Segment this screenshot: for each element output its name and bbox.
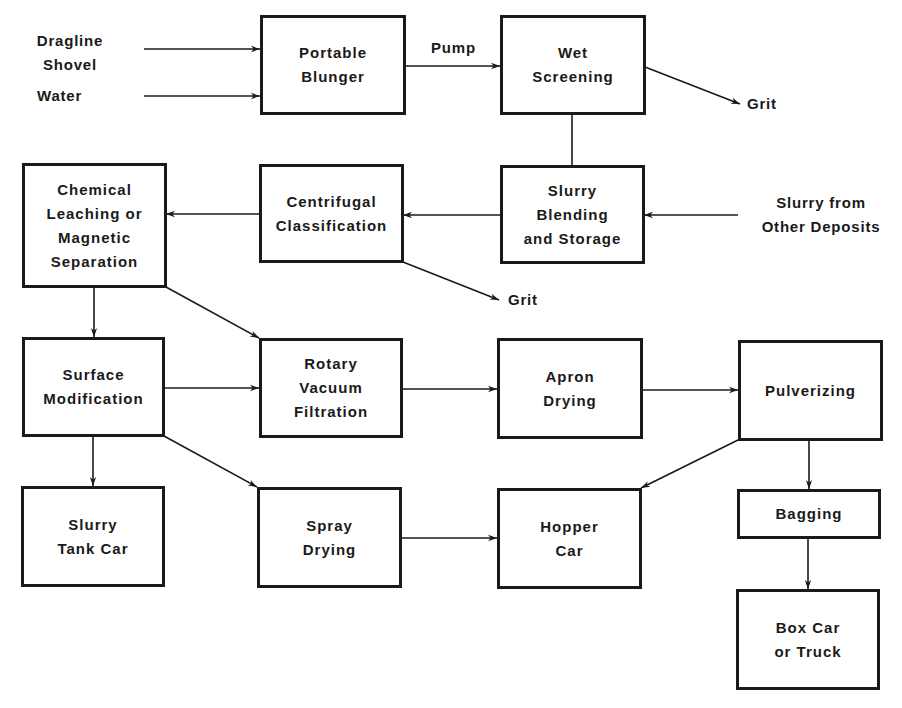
box-bagging: Bagging bbox=[737, 489, 881, 539]
box-label: Centrifugal Classification bbox=[276, 190, 388, 238]
box-label: Spray Drying bbox=[303, 514, 357, 562]
box-wet-screening: Wet Screening bbox=[500, 15, 646, 115]
label-slurry-other-deposits: Slurry from Other Deposits bbox=[752, 191, 890, 239]
arrow-screening-to-grit bbox=[645, 67, 740, 104]
box-label: Surface Modification bbox=[43, 363, 143, 411]
box-pulverizing: Pulverizing bbox=[738, 340, 883, 441]
box-box-car-or-truck: Box Car or Truck bbox=[736, 589, 880, 690]
label-grit-screening: Grit bbox=[747, 92, 777, 116]
box-label: Slurry Blending and Storage bbox=[524, 179, 622, 251]
box-surface-modification: Surface Modification bbox=[22, 337, 165, 437]
arrow-surface-to-spray bbox=[164, 436, 257, 487]
box-slurry-tank-car: Slurry Tank Car bbox=[21, 486, 165, 587]
box-apron-drying: Apron Drying bbox=[497, 338, 643, 439]
arrow-pulverizing-to-hopper bbox=[641, 440, 738, 488]
label-dragline-shovel: Dragline Shovel bbox=[29, 29, 111, 77]
box-label: Hopper Car bbox=[540, 515, 599, 563]
box-label: Slurry Tank Car bbox=[57, 513, 128, 561]
box-label: Chemical Leaching or Magnetic Separation bbox=[46, 178, 142, 274]
box-label: Rotary Vacuum Filtration bbox=[294, 352, 368, 424]
arrow-chemical-to-rotary bbox=[166, 287, 259, 338]
box-spray-drying: Spray Drying bbox=[257, 487, 402, 588]
box-slurry-blending: Slurry Blending and Storage bbox=[500, 165, 645, 264]
box-hopper-car: Hopper Car bbox=[497, 488, 642, 589]
box-label: Apron Drying bbox=[543, 365, 597, 413]
box-label: Pulverizing bbox=[765, 379, 856, 403]
box-label: Box Car or Truck bbox=[774, 616, 841, 664]
label-water: Water bbox=[37, 84, 82, 108]
box-label: Portable Blunger bbox=[299, 41, 367, 89]
box-rotary-vacuum-filtration: Rotary Vacuum Filtration bbox=[259, 338, 403, 438]
label-pump: Pump bbox=[431, 36, 476, 60]
box-chemical-leaching: Chemical Leaching or Magnetic Separation bbox=[22, 163, 167, 288]
box-label: Wet Screening bbox=[532, 41, 614, 89]
box-label: Bagging bbox=[776, 502, 843, 526]
label-grit-centrifugal: Grit bbox=[508, 288, 538, 312]
arrow-centrifugal-to-grit bbox=[403, 262, 499, 300]
box-centrifugal-classification: Centrifugal Classification bbox=[259, 164, 404, 263]
box-portable-blunger: Portable Blunger bbox=[260, 15, 406, 115]
